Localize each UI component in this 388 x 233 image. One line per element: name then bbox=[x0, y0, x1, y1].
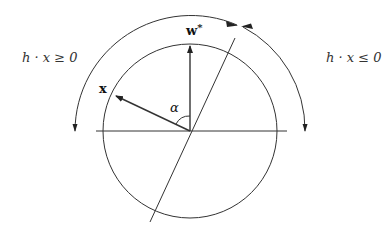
arc-arrowhead-icon bbox=[241, 24, 253, 30]
separating-hyperplane-line bbox=[150, 38, 235, 222]
left-outer-arc-arrow bbox=[75, 15, 237, 131]
vector-w-base: w bbox=[185, 23, 198, 38]
left-region-label: h · x ≥ 0 bbox=[22, 50, 78, 65]
vector-w-label: w* bbox=[185, 22, 203, 38]
angle-alpha-label: α bbox=[170, 100, 179, 115]
vector-w-superscript: * bbox=[197, 22, 203, 33]
angle-alpha-arc bbox=[176, 116, 190, 124]
right-region-label: h · x ≤ 0 bbox=[326, 50, 382, 65]
vector-x-label: x bbox=[99, 81, 107, 96]
arc-arrowhead-icon bbox=[226, 21, 238, 27]
right-outer-arc-arrow bbox=[243, 27, 305, 131]
vector-x-arrow bbox=[116, 96, 190, 131]
perceptron-geometry-diagram: h · x ≥ 0 h · x ≤ 0 w* x α bbox=[0, 0, 388, 233]
